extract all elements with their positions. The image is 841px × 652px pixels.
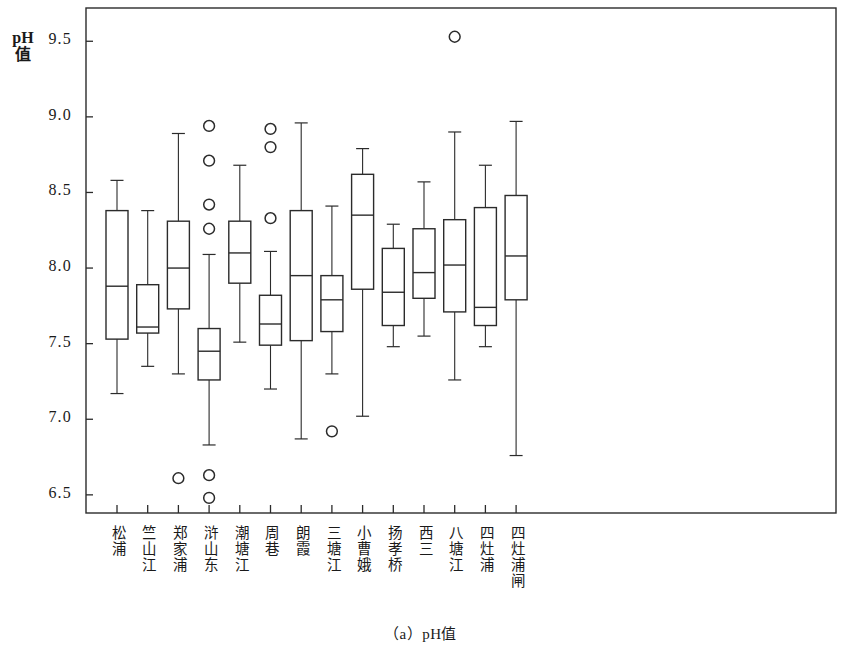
outlier-point [204, 121, 215, 132]
y-axis-tick-label: 9.5 [26, 30, 72, 48]
box-iqr [106, 211, 128, 340]
boxplot-series [352, 149, 374, 417]
outlier-point [265, 213, 276, 224]
x-axis-tick-label: 松浦 [110, 525, 125, 557]
boxplot-series [106, 180, 128, 393]
outlier-point [204, 199, 215, 210]
boxplot-figure: pH值 （a）pH值 6.57.07.58.08.59.09.5松浦竺山江郑家浦… [0, 0, 841, 652]
outlier-point [204, 470, 215, 481]
box-iqr [321, 276, 343, 332]
boxplot-series [167, 133, 189, 483]
outlier-point [173, 473, 184, 484]
x-axis-tick-label: 浒山东 [202, 525, 217, 573]
y-axis-tick-label: 9.0 [26, 106, 72, 124]
box-iqr [198, 329, 220, 380]
boxplot-series [290, 123, 312, 439]
y-axis-tick-label: 8.5 [26, 181, 72, 199]
y-axis-tick-label: 8.0 [26, 257, 72, 275]
y-axis-tick-label: 7.0 [26, 408, 72, 426]
boxplot-series [474, 165, 496, 346]
box-iqr [505, 195, 527, 299]
x-axis-tick-label: 周巷 [263, 525, 278, 557]
x-axis-tick-label: 潮塘江 [233, 525, 248, 573]
x-axis-tick-label: 朗霞 [294, 525, 309, 557]
x-axis-tick-label: 竺山江 [140, 525, 155, 573]
boxplot-series [382, 224, 404, 346]
boxplot-series [260, 124, 282, 389]
outlier-point [204, 223, 215, 234]
x-axis-tick-label: 八塘江 [447, 525, 462, 573]
x-axis-tick-label: 三塘江 [325, 525, 340, 573]
outlier-point [449, 31, 460, 42]
y-axis-tick-label: 6.5 [26, 484, 72, 502]
outlier-point [265, 124, 276, 135]
box-iqr [167, 221, 189, 309]
outlier-point [265, 142, 276, 153]
box-iqr [137, 285, 159, 333]
boxplot-series [229, 165, 251, 342]
x-axis-tick-label: 小曹娥 [355, 525, 370, 573]
boxplot-series [198, 121, 220, 504]
x-axis-tick-label: 四灶浦闸 [509, 525, 524, 589]
outlier-point [327, 426, 338, 437]
y-axis-tick-label: 7.5 [26, 333, 72, 351]
x-axis-tick-label: 扬孝桥 [386, 525, 401, 573]
box-iqr [413, 229, 435, 299]
figure-caption: （a）pH值 [0, 622, 841, 643]
x-axis-tick-label: 四灶浦 [478, 525, 493, 573]
boxplot-series [321, 206, 343, 437]
outlier-point [204, 492, 215, 503]
boxplot-series [444, 31, 466, 380]
x-axis-tick-label: 郑家浦 [171, 525, 186, 573]
box-iqr [352, 174, 374, 289]
boxplot-series [137, 211, 159, 367]
box-iqr [382, 248, 404, 325]
outlier-point [204, 155, 215, 166]
x-axis-tick-label: 西三 [417, 525, 432, 557]
boxplot-series [505, 121, 527, 455]
boxplot-series [413, 182, 435, 336]
box-iqr [444, 220, 466, 312]
box-iqr [229, 221, 251, 283]
box-iqr [260, 295, 282, 345]
